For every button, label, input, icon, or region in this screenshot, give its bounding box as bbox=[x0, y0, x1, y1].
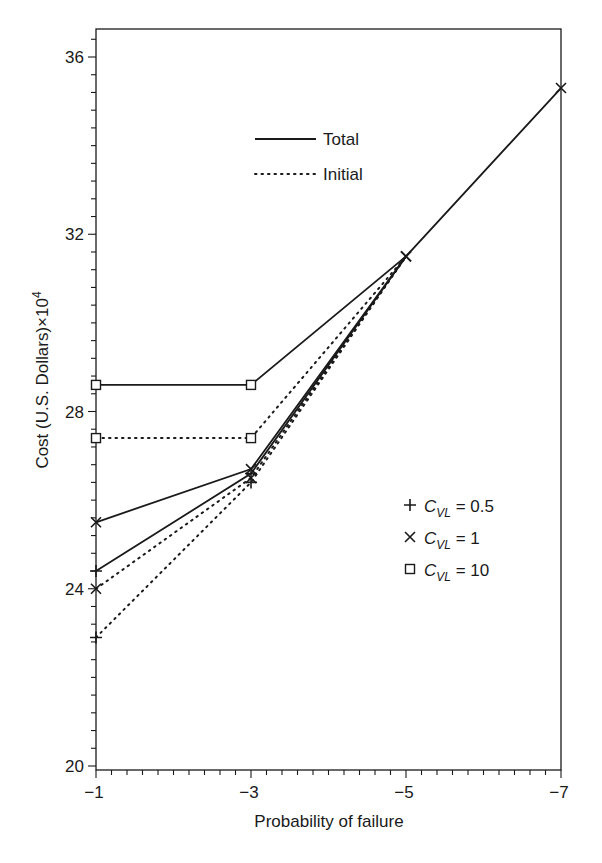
total-series-line bbox=[96, 256, 406, 571]
legend-initial-label: Initial bbox=[323, 165, 363, 184]
legend-cvl-label: CVL = 10 bbox=[424, 561, 489, 584]
legend-total-label: Total bbox=[323, 130, 359, 149]
initial-series-line bbox=[96, 256, 406, 588]
x-axis-title: Probability of failure bbox=[254, 812, 403, 831]
cross-marker-icon bbox=[401, 251, 411, 261]
cross-marker-icon bbox=[405, 532, 415, 542]
plus-marker-icon bbox=[90, 565, 102, 577]
y-tick-label: 32 bbox=[65, 225, 84, 244]
x-tick-label: −7 bbox=[549, 783, 568, 802]
square-marker-icon bbox=[92, 434, 101, 443]
y-tick-label: 20 bbox=[65, 757, 84, 776]
x-tick-label: −5 bbox=[394, 783, 413, 802]
x-tick-label: −1 bbox=[84, 783, 103, 802]
square-marker-icon bbox=[92, 380, 101, 389]
initial-series-line bbox=[96, 256, 406, 438]
total-series-line bbox=[96, 88, 561, 522]
y-tick-label: 28 bbox=[65, 403, 84, 422]
square-marker-icon bbox=[247, 434, 256, 443]
square-marker-icon bbox=[406, 565, 415, 574]
x-tick-label: −3 bbox=[239, 783, 258, 802]
legend-cvl-label: CVL = 1 bbox=[424, 529, 480, 552]
chart-canvas: 2024283236−1−3−5−7Probability of failure… bbox=[0, 0, 602, 863]
y-tick-label: 24 bbox=[65, 580, 84, 599]
plus-marker-icon bbox=[404, 499, 416, 511]
initial-series-line bbox=[96, 256, 406, 637]
legend-cvl-label: CVL = 0.5 bbox=[424, 497, 494, 520]
square-marker-icon bbox=[247, 380, 256, 389]
y-tick-label: 36 bbox=[65, 48, 84, 67]
y-axis-title: Cost (U.S. Dollars)×104 bbox=[30, 291, 52, 469]
